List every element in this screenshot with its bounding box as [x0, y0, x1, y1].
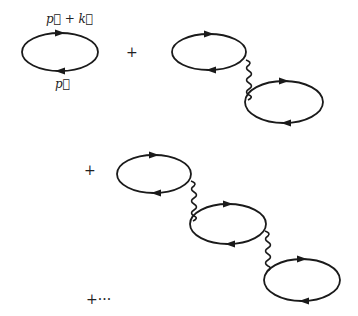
arrow-left-icon	[55, 68, 65, 75]
arrow-right-icon	[55, 30, 65, 37]
fermion-loop	[172, 34, 246, 70]
arrow-right-icon	[297, 256, 307, 263]
arrow-right-icon	[149, 152, 159, 159]
fermion-loop	[245, 81, 323, 123]
photon-wavy-line	[265, 231, 271, 271]
arrow-left-icon	[151, 190, 161, 197]
arrow-left-icon	[225, 241, 235, 248]
lower-momentum-label: p⃗	[55, 77, 70, 91]
plus-sign: +	[84, 162, 96, 178]
fermion-loop	[264, 259, 340, 301]
fermion-loop	[22, 33, 98, 71]
plus-ellipsis: +···	[86, 291, 111, 307]
feynman-diagram-series: p⃗ + k⃗ p⃗ + + +···	[0, 0, 358, 316]
arrow-right-icon	[279, 78, 289, 85]
arrow-left-icon	[206, 67, 216, 74]
arrow-right-icon	[223, 201, 233, 208]
term-2-two-loop-chain	[172, 31, 323, 127]
term-1-single-loop: p⃗ + k⃗ p⃗	[22, 12, 98, 91]
fermion-loop	[117, 155, 191, 193]
term-3-three-loop-chain	[117, 152, 340, 305]
arrow-left-icon	[299, 298, 309, 305]
arrow-left-icon	[281, 120, 291, 127]
fermion-loop	[190, 204, 266, 244]
upper-momentum-label: p⃗ + k⃗	[46, 12, 93, 26]
plus-sign: +	[126, 44, 138, 60]
arrow-right-icon	[204, 31, 214, 38]
